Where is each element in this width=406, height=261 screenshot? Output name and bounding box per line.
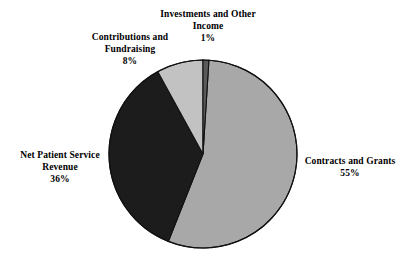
pie-label-investments-name-line1: Investments and Other <box>148 8 268 20</box>
pie-label-contracts-name-line1: Contracts and Grants <box>300 155 400 167</box>
pie-label-net-patient-name-line1: Net Patient Service <box>8 149 112 161</box>
pie-label-contributions-and-fundraising: Contributions and Fundraising 8% <box>78 31 182 68</box>
pie-label-net-patient-value: 36% <box>8 173 112 185</box>
pie-label-contributions-name-line1: Contributions and <box>78 31 182 43</box>
pie-label-contracts-and-grants: Contracts and Grants 55% <box>300 155 400 179</box>
pie-label-net-patient-service-revenue: Net Patient Service Revenue 36% <box>8 149 112 186</box>
pie-chart-figure: Investments and Other Income 1% Contribu… <box>0 0 406 261</box>
pie-label-contributions-value: 8% <box>78 55 182 67</box>
pie-label-contracts-value: 55% <box>300 167 400 179</box>
pie-label-net-patient-name-line2: Revenue <box>8 161 112 173</box>
pie-label-contributions-name-line2: Fundraising <box>78 43 182 55</box>
